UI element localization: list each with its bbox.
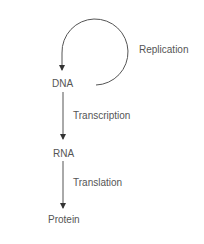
edge-label-replication: Replication [139,44,188,56]
diagram-canvas [0,0,204,244]
node-rna: RNA [53,148,74,160]
edge-label-translation: Translation [73,177,122,189]
node-protein: Protein [48,214,80,226]
replication-arrow [62,19,128,85]
edge-label-transcription: Transcription [73,110,130,122]
node-dna: DNA [52,78,73,90]
